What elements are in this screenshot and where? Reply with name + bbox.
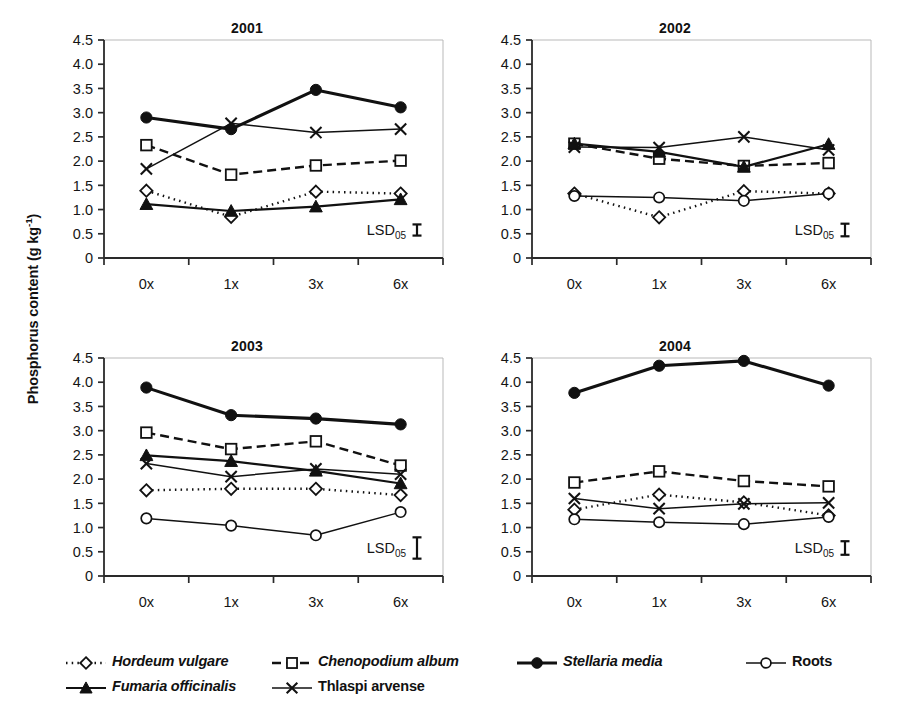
y-axis: 4.54.03.53.02.52.01.51.00.50 (501, 350, 532, 584)
y-tick-label: 3.5 (73, 81, 93, 97)
y-tick-label: 4.5 (73, 350, 93, 366)
y-tick-label: 2.0 (501, 153, 521, 169)
y-tick-label: 1.5 (73, 178, 93, 194)
series-hordeum-vulgare (140, 185, 406, 223)
panel-2003: 2003 4.54.03.53.02.52.01.51.00.500x1x3x6… (47, 340, 447, 640)
y-tick-label: 4.0 (501, 56, 521, 72)
y-tick-label: 4.5 (501, 350, 521, 366)
legend-marker-open-square-icon (268, 652, 316, 674)
x-axis: 0x1x3x6x (104, 258, 443, 292)
legend-label: Roots (792, 653, 832, 669)
lsd-label: LSD05 (795, 222, 835, 241)
series-hordeum-vulgare (568, 185, 834, 223)
figure-root: Phosphorus content (g kg-1) 2001 4.54.03… (0, 0, 903, 716)
y-tick-label: 2.5 (73, 129, 93, 145)
y-tick-label: 2.5 (73, 447, 93, 463)
y-axis: 4.54.03.53.02.52.01.51.00.50 (73, 350, 104, 584)
x-tick-label: 6x (821, 276, 837, 292)
x-tick-label: 1x (223, 594, 239, 610)
y-tick-label: 4.0 (73, 56, 93, 72)
y-tick-label: 0 (513, 250, 521, 266)
series-thlaspi-arvense (141, 118, 406, 175)
series-fumaria-officinalis (140, 193, 407, 216)
x-tick-label: 0x (139, 594, 155, 610)
y-tick-label: 2.0 (501, 471, 521, 487)
legend: Hordeum vulgareChenopodium albumStellari… (0, 652, 903, 712)
y-tick-label: 1.0 (501, 520, 521, 536)
lsd-label: LSD05 (795, 540, 835, 559)
lsd-label: LSD05 (367, 540, 407, 559)
legend-marker-cross-icon (268, 677, 316, 699)
plot-area: 4.54.03.53.02.52.01.51.00.500x1x3x6xLSD0… (47, 22, 447, 322)
lsd-annotation: LSD05 (367, 537, 422, 559)
series-roots (569, 512, 834, 530)
series-roots (141, 507, 406, 541)
y-tick-label: 2.5 (501, 129, 521, 145)
panel-2004: 2004 4.54.03.53.02.52.01.51.00.500x1x3x6… (475, 340, 875, 640)
x-tick-label: 3x (736, 594, 752, 610)
y-tick-label: 0.5 (73, 544, 93, 560)
plot-area: 4.54.03.53.02.52.01.51.00.500x1x3x6xLSD0… (475, 340, 875, 640)
x-tick-label: 3x (736, 276, 752, 292)
series-chenopodium-album (569, 138, 834, 171)
series-chenopodium-album (569, 466, 834, 492)
x-axis: 0x1x3x6x (532, 258, 871, 292)
y-tick-label: 4.0 (501, 374, 521, 390)
y-tick-label: 0 (85, 568, 93, 584)
y-tick-label: 2.5 (501, 447, 521, 463)
y-tick-label: 3.5 (73, 399, 93, 415)
legend-marker-open-circle-icon (742, 652, 790, 674)
y-tick-label: 4.5 (73, 32, 93, 48)
lsd-annotation: LSD05 (367, 222, 422, 241)
x-tick-label: 3x (308, 594, 324, 610)
x-tick-label: 0x (567, 276, 583, 292)
y-tick-label: 3.0 (73, 423, 93, 439)
legend-label: Thlaspi arvense (318, 678, 425, 694)
legend-label: Hordeum vulgare (112, 653, 228, 669)
y-tick-label: 3.5 (501, 399, 521, 415)
y-tick-label: 3.0 (73, 105, 93, 121)
y-tick-label: 1.0 (73, 520, 93, 536)
series-chenopodium-album (141, 427, 406, 471)
panel-2002: 2002 4.54.03.53.02.52.01.51.00.500x1x3x6… (475, 22, 875, 322)
x-tick-label: 3x (308, 276, 324, 292)
lsd-annotation: LSD05 (795, 540, 850, 559)
series-hordeum-vulgare (140, 483, 406, 501)
y-tick-label: 2.0 (73, 471, 93, 487)
legend-marker-filled-triangle-icon (62, 677, 110, 699)
y-tick-label: 1.5 (73, 496, 93, 512)
series-stellaria-media (141, 382, 406, 430)
plot-area: 4.54.03.53.02.52.01.51.00.500x1x3x6xLSD0… (47, 340, 447, 640)
x-tick-label: 6x (393, 594, 409, 610)
legend-marker-open-diamond-icon (62, 652, 110, 674)
x-axis: 0x1x3x6x (532, 576, 871, 610)
y-axis-title-exponent: -1 (23, 218, 34, 227)
y-tick-label: 0.5 (501, 226, 521, 242)
series-stellaria-media (569, 355, 834, 398)
legend-label: Chenopodium album (318, 653, 459, 669)
x-tick-label: 0x (567, 594, 583, 610)
y-tick-label: 0 (513, 568, 521, 584)
panel-2001: 2001 4.54.03.53.02.52.01.51.00.500x1x3x6… (47, 22, 447, 322)
x-tick-label: 6x (821, 594, 837, 610)
y-tick-label: 4.0 (73, 374, 93, 390)
y-tick-label: 3.0 (501, 423, 521, 439)
x-tick-label: 0x (139, 276, 155, 292)
y-tick-label: 1.5 (501, 496, 521, 512)
y-axis-title-paren: ) (25, 214, 41, 219)
x-tick-label: 1x (651, 594, 667, 610)
y-axis-title: Phosphorus content (g kg-1) (23, 109, 41, 509)
x-axis: 0x1x3x6x (104, 576, 443, 610)
series-thlaspi-arvense (569, 131, 834, 155)
series-chenopodium-album (141, 140, 406, 180)
y-tick-label: 0.5 (73, 226, 93, 242)
y-tick-label: 4.5 (501, 32, 521, 48)
plot-area: 4.54.03.53.02.52.01.51.00.500x1x3x6xLSD0… (475, 22, 875, 322)
lsd-label: LSD05 (367, 222, 407, 241)
x-tick-label: 1x (223, 276, 239, 292)
y-tick-label: 3.5 (501, 81, 521, 97)
legend-label: Stellaria media (563, 653, 662, 669)
y-tick-label: 3.0 (501, 105, 521, 121)
y-tick-label: 2.0 (73, 153, 93, 169)
x-tick-label: 1x (651, 276, 667, 292)
